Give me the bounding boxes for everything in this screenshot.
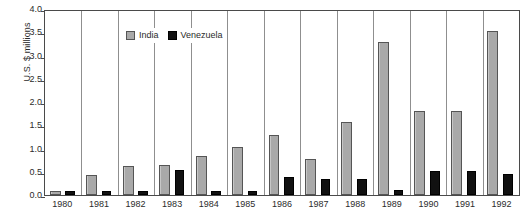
legend-item-india: India bbox=[126, 31, 159, 40]
bar-venezuela-1981 bbox=[102, 191, 111, 195]
bar-venezuela-1987 bbox=[321, 179, 330, 195]
bar-group bbox=[227, 11, 263, 195]
plot-area: India Venezuela bbox=[44, 10, 520, 196]
y-tick-mark bbox=[41, 11, 45, 12]
y-tick-label: 3.0 bbox=[16, 52, 42, 61]
y-tick-mark bbox=[41, 58, 45, 59]
bar-group bbox=[446, 11, 482, 195]
y-tick-mark bbox=[41, 174, 45, 175]
x-tick-label: 1989 bbox=[373, 197, 410, 211]
x-tick-label: 1987 bbox=[300, 197, 337, 211]
y-tick-label: 2.5 bbox=[16, 75, 42, 84]
bar-venezuela-1991 bbox=[467, 171, 476, 195]
bar-venezuela-1989 bbox=[394, 190, 403, 195]
bar-group bbox=[81, 11, 117, 195]
bar-india-1981 bbox=[86, 175, 97, 195]
bar-india-1990 bbox=[414, 111, 425, 195]
legend-label-india: India bbox=[139, 31, 159, 40]
bar-india-1987 bbox=[305, 159, 316, 195]
legend-item-venezuela: Venezuela bbox=[168, 31, 223, 40]
legend-swatch-india-icon bbox=[126, 31, 135, 40]
x-tick-label: 1983 bbox=[154, 197, 191, 211]
bar-india-1986 bbox=[269, 135, 280, 195]
x-tick-label: 1986 bbox=[264, 197, 301, 211]
bar-group bbox=[373, 11, 409, 195]
y-tick-mark bbox=[41, 34, 45, 35]
bar-group bbox=[264, 11, 300, 195]
bar-chart: U.S. $ millions 4.03.53.02.52.01.51.00.5… bbox=[0, 0, 525, 224]
bar-venezuela-1992 bbox=[503, 174, 512, 195]
x-tick-label: 1984 bbox=[190, 197, 227, 211]
y-tick-label: 1.5 bbox=[16, 121, 42, 130]
y-tick-mark bbox=[41, 151, 45, 152]
bar-venezuela-1982 bbox=[138, 191, 147, 195]
y-tick-label: 0.5 bbox=[16, 168, 42, 177]
bar-venezuela-1980 bbox=[65, 191, 74, 195]
bar-venezuela-1983 bbox=[175, 170, 184, 195]
x-tick-label: 1992 bbox=[483, 197, 520, 211]
y-tick-mark bbox=[41, 81, 45, 82]
bar-group bbox=[45, 11, 81, 195]
y-tick-label: 4.0 bbox=[16, 5, 42, 14]
bar-india-1992 bbox=[487, 31, 498, 195]
bar-venezuela-1985 bbox=[248, 191, 257, 195]
x-tick-label: 1988 bbox=[337, 197, 374, 211]
y-tick-label: 3.5 bbox=[16, 28, 42, 37]
x-tick-label: 1991 bbox=[447, 197, 484, 211]
y-tick-label: 1.0 bbox=[16, 145, 42, 154]
bar-india-1984 bbox=[196, 156, 207, 195]
y-tick-label: 2.0 bbox=[16, 98, 42, 107]
bar-india-1982 bbox=[123, 166, 134, 195]
bar-groups bbox=[45, 11, 519, 195]
y-tick-label: 0.0 bbox=[16, 191, 42, 200]
legend-label-venezuela: Venezuela bbox=[181, 31, 223, 40]
bar-venezuela-1990 bbox=[430, 171, 439, 195]
x-tick-label: 1985 bbox=[227, 197, 264, 211]
x-tick-label: 1980 bbox=[44, 197, 81, 211]
bar-india-1985 bbox=[232, 147, 243, 195]
bar-venezuela-1986 bbox=[284, 177, 293, 195]
y-tick-mark bbox=[41, 104, 45, 105]
bar-venezuela-1988 bbox=[357, 179, 366, 195]
bar-group bbox=[337, 11, 373, 195]
bar-india-1983 bbox=[159, 165, 170, 195]
figure-caption bbox=[8, 215, 428, 224]
x-axis-ticks: 1980198119821983198419851986198719881989… bbox=[44, 197, 520, 211]
legend-swatch-venezuela-icon bbox=[168, 31, 177, 40]
x-tick-label: 1981 bbox=[81, 197, 118, 211]
bar-group bbox=[410, 11, 446, 195]
y-axis-ticks: 4.03.53.02.52.01.51.00.50.0 bbox=[12, 0, 42, 224]
bar-india-1989 bbox=[378, 42, 389, 195]
x-tick-label: 1982 bbox=[117, 197, 154, 211]
bar-india-1988 bbox=[341, 122, 352, 195]
x-tick-label: 1990 bbox=[410, 197, 447, 211]
bar-group bbox=[300, 11, 336, 195]
bar-venezuela-1984 bbox=[211, 191, 220, 195]
y-tick-mark bbox=[41, 127, 45, 128]
legend: India Venezuela bbox=[122, 28, 227, 43]
bar-india-1980 bbox=[50, 191, 61, 195]
bar-group bbox=[483, 11, 519, 195]
bar-india-1991 bbox=[451, 111, 462, 195]
